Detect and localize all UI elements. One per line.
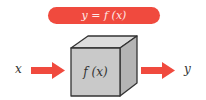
box-label: f (x) [71, 48, 120, 96]
input-label: x [15, 62, 22, 76]
input-arrow-icon [31, 62, 65, 79]
output-arrow-icon [141, 62, 175, 79]
output-label: y [184, 62, 191, 76]
